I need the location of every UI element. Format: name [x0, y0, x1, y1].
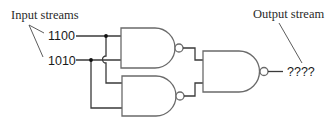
wire-input-a — [76, 34, 122, 83]
output-pointer-line — [279, 23, 302, 63]
input-a-value: 1100 — [48, 29, 75, 43]
wire-gate2-to-gate3 — [184, 83, 203, 96]
input-pointer-line-b — [29, 25, 43, 57]
inversion-bubble-icon — [175, 44, 183, 52]
inversion-bubble-icon — [260, 68, 268, 76]
junction-dot-a — [104, 34, 108, 38]
junction-dot-b — [89, 58, 93, 62]
inversion-bubble-icon — [176, 92, 184, 100]
input-pointer-line-a — [29, 25, 44, 33]
wire-gate1-to-gate3 — [183, 48, 203, 60]
nand-gate-2 — [122, 76, 184, 116]
input-streams-label: Input streams — [11, 8, 79, 22]
input-b-value: 1010 — [48, 54, 76, 68]
nand-gate-1 — [121, 28, 183, 68]
output-stream-label: Output stream — [253, 7, 324, 21]
logic-circuit-diagram: Input streams 1100 1010 — [0, 0, 330, 124]
nand-gate-3 — [203, 51, 268, 92]
output-value: ???? — [287, 65, 315, 79]
